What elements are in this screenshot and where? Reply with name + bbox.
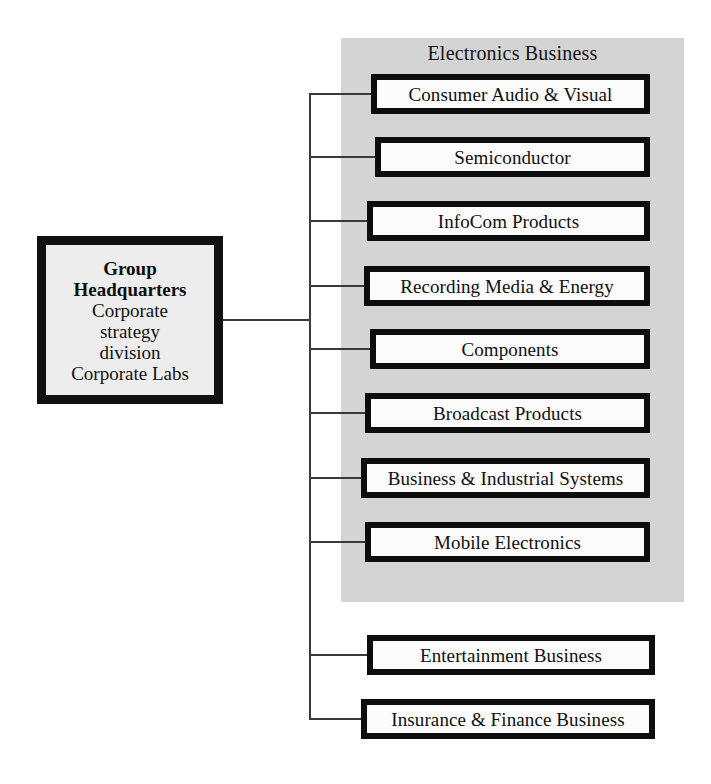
group-headquarters-box[interactable]: Group Headquarters Corporate strategy di… xyxy=(37,236,223,404)
hq-detail-line-2: strategy xyxy=(100,322,160,343)
unit-box-insurance-finance-business[interactable]: Insurance & Finance Business xyxy=(361,699,655,739)
unit-box-inner: Insurance & Finance Business xyxy=(367,705,649,733)
unit-box-inner: Recording Media & Energy xyxy=(370,272,644,300)
unit-label: Recording Media & Energy xyxy=(400,277,614,296)
unit-box-semiconductor[interactable]: Semiconductor xyxy=(375,137,650,177)
branch-headquarters xyxy=(222,319,311,321)
group-headquarters-content: Group Headquarters Corporate strategy di… xyxy=(46,245,214,395)
unit-label: Insurance & Finance Business xyxy=(391,710,624,729)
unit-box-inner: InfoCom Products xyxy=(373,207,644,235)
unit-box-inner: Mobile Electronics xyxy=(371,528,644,556)
unit-box-inner: Broadcast Products xyxy=(371,399,644,427)
unit-box-mobile-electronics[interactable]: Mobile Electronics xyxy=(365,522,650,562)
unit-box-inner: Semiconductor xyxy=(381,143,644,171)
unit-box-business-industrial-systems[interactable]: Business & Industrial Systems xyxy=(361,458,650,498)
unit-box-broadcast-products[interactable]: Broadcast Products xyxy=(365,393,650,433)
unit-label: Business & Industrial Systems xyxy=(388,469,624,488)
unit-box-inner: Components xyxy=(376,335,644,363)
branch-other-2 xyxy=(309,718,361,720)
unit-label: Mobile Electronics xyxy=(434,533,581,552)
unit-box-entertainment-business[interactable]: Entertainment Business xyxy=(367,635,655,675)
unit-box-inner: Consumer Audio & Visual xyxy=(377,80,644,108)
unit-box-inner: Business & Industrial Systems xyxy=(367,464,644,492)
trunk-line xyxy=(309,93,311,719)
unit-label: Broadcast Products xyxy=(433,404,582,423)
unit-label: Entertainment Business xyxy=(420,646,602,665)
unit-label: Semiconductor xyxy=(454,148,570,167)
hq-title-line-1: Group xyxy=(103,258,157,280)
hq-detail-line-1: Corporate xyxy=(92,301,168,322)
electronics-business-title: Electronics Business xyxy=(341,42,684,65)
unit-box-inner: Entertainment Business xyxy=(373,641,649,669)
hq-title-line-2: Headquarters xyxy=(74,279,187,301)
unit-box-recording-media-energy[interactable]: Recording Media & Energy xyxy=(364,266,650,306)
hq-detail-line-3: division xyxy=(99,343,160,364)
electronics-business-panel: Electronics Business xyxy=(341,38,684,602)
unit-box-consumer-audio-visual[interactable]: Consumer Audio & Visual xyxy=(371,74,650,114)
unit-label: Consumer Audio & Visual xyxy=(408,85,612,104)
unit-label: InfoCom Products xyxy=(438,212,579,231)
branch-other-1 xyxy=(309,654,367,656)
hq-detail-line-4: Corporate Labs xyxy=(71,364,189,385)
unit-label: Components xyxy=(461,340,558,359)
unit-box-infocom-products[interactable]: InfoCom Products xyxy=(367,201,650,241)
org-chart-diagram: Electronics Business Group Headquarters … xyxy=(0,0,711,784)
unit-box-components[interactable]: Components xyxy=(370,329,650,369)
